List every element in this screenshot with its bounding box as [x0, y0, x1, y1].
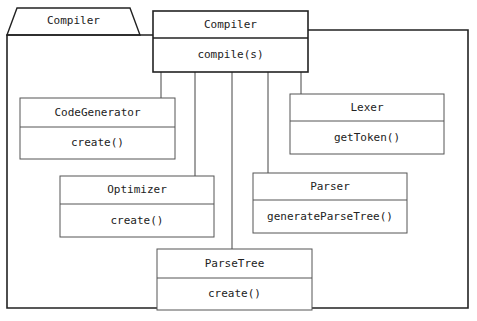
operation-parsetree-create: create()	[157, 287, 312, 301]
package-name: Compiler	[17, 14, 130, 28]
class-name-codegenerator: CodeGenerator	[20, 106, 175, 120]
operation-compile: compile(s)	[153, 48, 308, 62]
class-name-parser: Parser	[253, 180, 407, 194]
operation-optimizer-create: create()	[60, 214, 214, 228]
operation-parser-generateparsetree: generateParseTree()	[253, 210, 407, 224]
class-name-compiler: Compiler	[153, 18, 308, 32]
class-name-lexer: Lexer	[290, 101, 444, 115]
class-name-optimizer: Optimizer	[60, 183, 214, 197]
operation-codegenerator-create: create()	[20, 136, 175, 150]
operation-lexer-gettoken: getToken()	[290, 131, 444, 145]
class-name-parsetree: ParseTree	[157, 257, 312, 271]
